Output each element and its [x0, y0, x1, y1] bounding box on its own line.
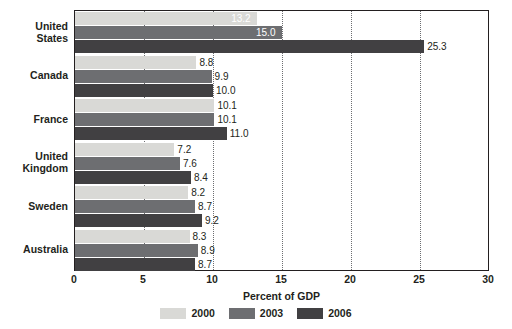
bar-value-label: 9.9 — [215, 70, 229, 83]
legend-item-2006[interactable]: 2006 — [297, 307, 351, 319]
bar-value-label: 13.2 — [231, 12, 250, 25]
bar-group: 10.110.111.0 — [75, 99, 488, 140]
plot-area: 13.215.025.38.89.910.010.110.111.07.27.6… — [74, 10, 489, 271]
bar-2006-united-states — [75, 40, 424, 53]
category-label: Sweden — [6, 200, 68, 212]
bar-value-label: 8.9 — [201, 244, 215, 257]
legend-label: 2006 — [328, 307, 351, 319]
legend-swatch-icon — [160, 308, 186, 319]
category-axis-labels: UnitedStatesCanadaFranceUnitedKingdomSwe… — [0, 10, 68, 271]
bar-2003-france — [75, 113, 214, 126]
bar-group: 8.38.98.7 — [75, 230, 488, 271]
bar-value-label: 15.0 — [256, 26, 275, 39]
x-tick-label: 30 — [482, 273, 494, 285]
bar-value-label: 8.2 — [191, 186, 205, 199]
category-label: UnitedStates — [6, 20, 68, 44]
bar-value-label: 10.1 — [217, 113, 236, 126]
category-label: UnitedKingdom — [6, 150, 68, 174]
chart-container: UnitedStatesCanadaFranceUnitedKingdomSwe… — [0, 0, 512, 329]
bar-group: 7.27.68.4 — [75, 143, 488, 184]
bar-value-label: 10.0 — [216, 84, 235, 97]
bar-2006-australia — [75, 258, 195, 271]
bar-2006-canada — [75, 84, 213, 97]
x-axis-title: Percent of GDP — [74, 290, 489, 302]
x-tick-label: 25 — [413, 273, 425, 285]
legend-swatch-icon — [229, 308, 255, 319]
category-label: France — [6, 113, 68, 125]
x-tick-label: 20 — [344, 273, 356, 285]
bar-2003-united-states — [75, 26, 282, 39]
bar-value-label: 7.2 — [177, 143, 191, 156]
legend-label: 2003 — [260, 307, 283, 319]
x-tick-label: 5 — [140, 273, 146, 285]
bar-value-label: 8.7 — [198, 258, 212, 271]
bar-value-label: 7.6 — [183, 157, 197, 170]
x-tick-label: 10 — [206, 273, 218, 285]
bar-value-label: 11.0 — [230, 127, 249, 140]
bar-group: 13.215.025.3 — [75, 12, 488, 53]
bar-2003-sweden — [75, 200, 195, 213]
bar-2000-france — [75, 99, 214, 112]
bar-2003-canada — [75, 70, 212, 83]
legend-item-2003[interactable]: 2003 — [229, 307, 283, 319]
chart-legend: 200020032006 — [0, 307, 512, 319]
bar-value-label: 10.1 — [217, 99, 236, 112]
bar-value-label: 8.4 — [194, 171, 208, 184]
bar-value-label: 9.2 — [205, 214, 219, 227]
x-tick-label: 15 — [275, 273, 287, 285]
bar-2006-france — [75, 127, 227, 140]
bar-value-label: 8.8 — [199, 56, 213, 69]
bar-2000-canada — [75, 56, 196, 69]
bar-2006-sweden — [75, 214, 202, 227]
legend-item-2000[interactable]: 2000 — [160, 307, 214, 319]
bar-2003-united-kingdom — [75, 157, 180, 170]
bar-2000-united-states — [75, 12, 257, 25]
bar-2006-united-kingdom — [75, 171, 191, 184]
bar-group: 8.28.79.2 — [75, 186, 488, 227]
bar-value-label: 25.3 — [427, 40, 446, 53]
category-label: Canada — [6, 69, 68, 81]
bar-2003-australia — [75, 244, 198, 257]
legend-label: 2000 — [191, 307, 214, 319]
legend-swatch-icon — [297, 308, 323, 319]
bar-group: 8.89.910.0 — [75, 56, 488, 97]
category-label: Australia — [6, 243, 68, 255]
x-tick-label: 0 — [71, 273, 77, 285]
bar-2000-sweden — [75, 186, 188, 199]
bar-2000-australia — [75, 230, 190, 243]
bar-value-label: 8.7 — [198, 200, 212, 213]
bar-value-label: 8.3 — [193, 230, 207, 243]
bar-2000-united-kingdom — [75, 143, 174, 156]
